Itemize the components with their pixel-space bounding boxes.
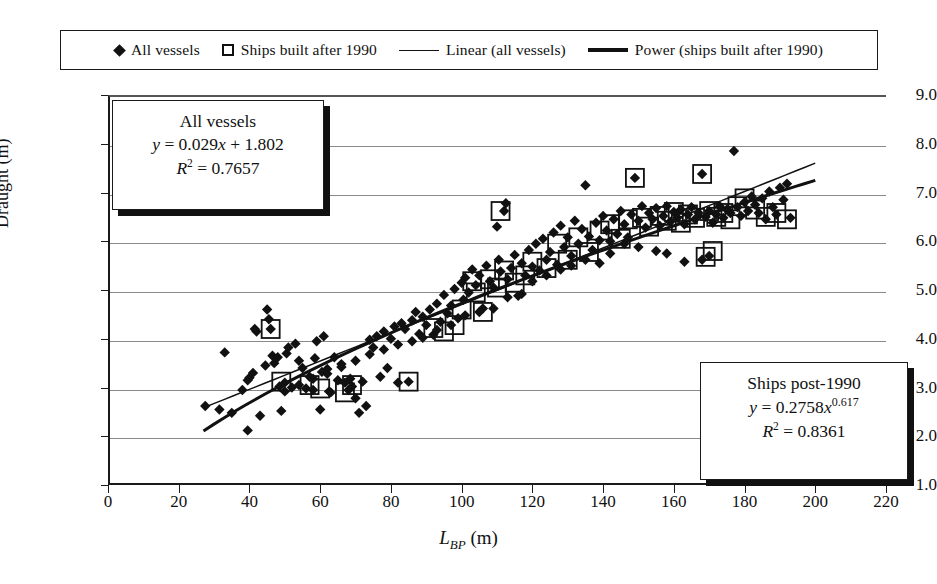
x-tick-label: 20 (170, 492, 187, 512)
y-tick-mark (101, 144, 108, 145)
x-tick-label: 120 (520, 492, 546, 512)
annotation-post-1990-equation: y = 0.2758x0.617 (701, 395, 907, 419)
eq-y-symbol: y (749, 397, 757, 417)
x-tick-mark (179, 485, 180, 493)
x-tick-label: 140 (590, 492, 616, 512)
eq-intercept: + 1.802 (226, 134, 284, 154)
y-tick-label: 9.0 (891, 85, 937, 105)
gridline (110, 243, 886, 244)
eq-x-symbol: x (824, 397, 832, 417)
thin-line-icon (399, 50, 439, 51)
chart-figure: All vessels Ships built after 1990 Linea… (0, 0, 937, 584)
x-tick-mark (603, 485, 604, 493)
x-tick-mark (249, 485, 250, 493)
x-axis-title: LBP (m) (0, 527, 937, 553)
y-tick-label: 5.0 (891, 280, 937, 300)
y-tick-label: 7.0 (891, 183, 937, 203)
annotation-all-vessels-title: All vessels (113, 110, 323, 133)
legend-item-ships-post-1990: Ships built after 1990 (222, 42, 377, 58)
x-axis-title-sub: BP (450, 537, 466, 552)
x-tick-mark (745, 485, 746, 493)
y-tick-mark (101, 290, 108, 291)
y-tick-label: 4.0 (891, 329, 937, 349)
legend-item-all-vessels: All vessels (115, 42, 200, 58)
legend-label-all-vessels: All vessels (131, 42, 200, 58)
y-tick-label: 6.0 (891, 231, 937, 251)
annotation-all-vessels-r2: R2 = 0.7657 (113, 156, 323, 180)
y-tick-mark (101, 388, 108, 389)
chart-legend: All vessels Ships built after 1990 Linea… (60, 30, 878, 70)
eq-coefficient: = 0.029 (160, 134, 218, 154)
x-tick-mark (815, 485, 816, 493)
r-value: = 0.7657 (193, 158, 260, 178)
annotation-post-1990-r2: R2 = 0.8361 (701, 419, 907, 443)
legend-label-ships-post-1990: Ships built after 1990 (241, 42, 377, 58)
y-tick-mark (101, 436, 108, 437)
x-axis-title-unit: (m) (470, 527, 497, 548)
x-tick-label: 100 (449, 492, 475, 512)
x-tick-label: 80 (382, 492, 399, 512)
legend-item-power-fit: Power (ships built after 1990) (588, 42, 823, 58)
r-symbol: R (762, 421, 773, 441)
legend-item-linear-fit: Linear (all vessels) (399, 42, 566, 58)
x-tick-mark (532, 485, 533, 493)
x-tick-mark (320, 485, 321, 493)
x-tick-label: 220 (873, 492, 899, 512)
diamond-marker-icon (113, 44, 126, 57)
y-tick-mark (101, 485, 108, 486)
r-value: = 0.8361 (779, 421, 846, 441)
annotation-all-vessels-equation: y = 0.029x + 1.802 (113, 133, 323, 156)
x-tick-label: 60 (312, 492, 329, 512)
r-symbol: R (176, 158, 187, 178)
x-tick-label: 40 (241, 492, 258, 512)
gridline (110, 292, 886, 293)
y-tick-mark (101, 95, 108, 96)
x-axis-title-main: L (439, 527, 450, 548)
eq-exponent: 0.617 (832, 395, 859, 409)
legend-label-power-fit: Power (ships built after 1990) (635, 42, 823, 58)
x-tick-mark (108, 485, 109, 493)
x-tick-mark (674, 485, 675, 493)
annotation-all-vessels: All vessels y = 0.029x + 1.802 R2 = 0.76… (112, 100, 324, 210)
eq-x-symbol: x (218, 134, 226, 154)
annotation-post-1990: Ships post-1990 y = 0.2758x0.617 R2 = 0.… (700, 362, 908, 480)
y-tick-mark (101, 193, 108, 194)
x-tick-mark (391, 485, 392, 493)
square-marker-icon (222, 44, 234, 56)
y-tick-mark (101, 339, 108, 340)
annotation-post-1990-title: Ships post-1990 (701, 372, 907, 395)
x-tick-mark (886, 485, 887, 493)
eq-y-symbol: y (152, 134, 160, 154)
y-axis-title: Draught (m) (0, 139, 13, 228)
gridline (110, 341, 886, 342)
y-tick-label: 8.0 (891, 134, 937, 154)
x-tick-label: 0 (104, 492, 113, 512)
legend-label-linear-fit: Linear (all vessels) (446, 42, 566, 58)
eq-coefficient: = 0.2758 (757, 397, 824, 417)
x-tick-label: 160 (661, 492, 687, 512)
thick-line-icon (588, 48, 628, 52)
x-tick-label: 200 (803, 492, 829, 512)
x-tick-mark (462, 485, 463, 493)
y-tick-mark (101, 241, 108, 242)
x-tick-label: 180 (732, 492, 758, 512)
